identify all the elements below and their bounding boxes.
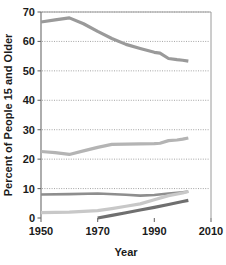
- chart-container: 010203040506070 1950197019902010 Year Pe…: [0, 0, 226, 265]
- x-axis-title: Year: [114, 246, 138, 258]
- y-tick-label-60: 60: [23, 35, 35, 47]
- y-tick-label-20: 20: [23, 153, 35, 165]
- line-chart: 010203040506070 1950197019902010 Year Pe…: [0, 0, 226, 265]
- y-tick-label-40: 40: [23, 94, 35, 106]
- gridlines: [42, 12, 210, 189]
- x-tick-label-2010: 2010: [199, 225, 223, 237]
- data-series: [41, 18, 188, 218]
- x-tick-label-1950: 1950: [29, 225, 53, 237]
- y-tick-label-70: 70: [23, 6, 35, 18]
- y-tick-label-50: 50: [23, 65, 35, 77]
- y-axis-tick-labels: 010203040506070: [23, 6, 35, 224]
- y-tick-label-30: 30: [23, 124, 35, 136]
- x-axis-tick-labels: 1950197019902010: [29, 225, 223, 237]
- y-axis-title: Percent of People 15 and Older: [2, 33, 14, 196]
- series-line-series-2-rising-mid: [41, 138, 188, 154]
- x-tick-label-1990: 1990: [142, 225, 166, 237]
- x-tick-label-1970: 1970: [85, 225, 109, 237]
- y-tick-label-10: 10: [23, 183, 35, 195]
- series-line-series-1-top-declining: [41, 18, 188, 61]
- y-tick-label-0: 0: [29, 212, 35, 224]
